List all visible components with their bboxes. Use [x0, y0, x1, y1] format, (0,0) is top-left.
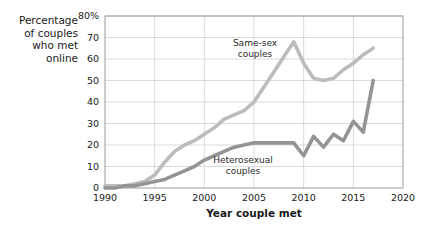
series-annotation-heterosexual: Heterosexualcouples	[198, 155, 288, 176]
plot-area	[0, 0, 421, 230]
series-annotation-same-sex: Same-sexcouples	[215, 38, 295, 59]
annotation-line-2: couples	[215, 49, 295, 60]
annotation-line-1: Same-sex	[215, 38, 295, 49]
annotation-line-2: couples	[198, 166, 288, 177]
annotation-line-1: Heterosexual	[198, 155, 288, 166]
chart-container: Percentageof coupleswho metonline 010203…	[0, 0, 421, 230]
x-axis-title: Year couple met	[105, 207, 403, 219]
